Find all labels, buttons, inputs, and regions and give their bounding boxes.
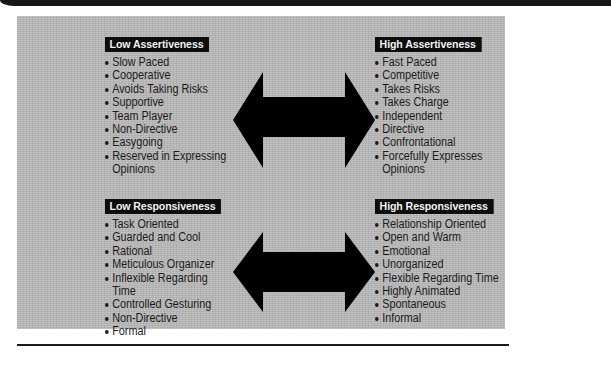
list-item: Forcefully Expresses Opinions [375,150,504,177]
high-assertiveness-heading: High Assertiveness [375,37,481,52]
list-item: Flexible Regarding Time [375,272,537,285]
list-item: Unorganized [375,258,537,271]
list-item: Competitive [375,69,537,82]
top-border-bar [0,0,611,6]
list-item: Takes Risks [375,83,537,96]
low-responsiveness-heading: Low Responsiveness [105,199,221,214]
list-item: Formal [105,325,267,338]
high-responsiveness-block: High Responsiveness Relationship Oriente… [375,196,555,325]
high-responsiveness-heading: High Responsiveness [375,199,493,214]
high-assertiveness-list: Fast Paced Competitive Takes Risks Takes… [375,56,537,177]
assertiveness-double-arrow-icon [233,72,375,168]
list-item: Reserved in Expressing Opinions [105,150,247,177]
high-responsiveness-list: Relationship Oriented Open and Warm Emot… [375,218,537,325]
list-item: Relationship Oriented [375,218,537,231]
list-item: Open and Warm [375,231,537,244]
high-assertiveness-block: High Assertiveness Fast Paced Competitiv… [375,34,555,177]
responsiveness-double-arrow-icon [233,232,375,312]
diagram-panel: Low Assertiveness Slow Paced Cooperative… [17,16,505,329]
list-item: Task Oriented [105,218,267,231]
list-item: Directive [375,123,537,136]
list-item: Inflexible Regarding Time [105,272,225,299]
list-item: Takes Charge [375,96,537,109]
list-item: Non-Directive [105,312,267,325]
low-assertiveness-heading: Low Assertiveness [105,37,209,52]
list-item: Fast Paced [375,56,537,69]
list-item: Informal [375,312,537,325]
bottom-divider-rule [17,344,509,346]
list-item: Independent [375,110,537,123]
list-item: Emotional [375,245,537,258]
list-item: Slow Paced [105,56,267,69]
list-item: Highly Animated [375,285,537,298]
list-item: Confrontational [375,136,537,149]
list-item: Spontaneous [375,298,537,311]
